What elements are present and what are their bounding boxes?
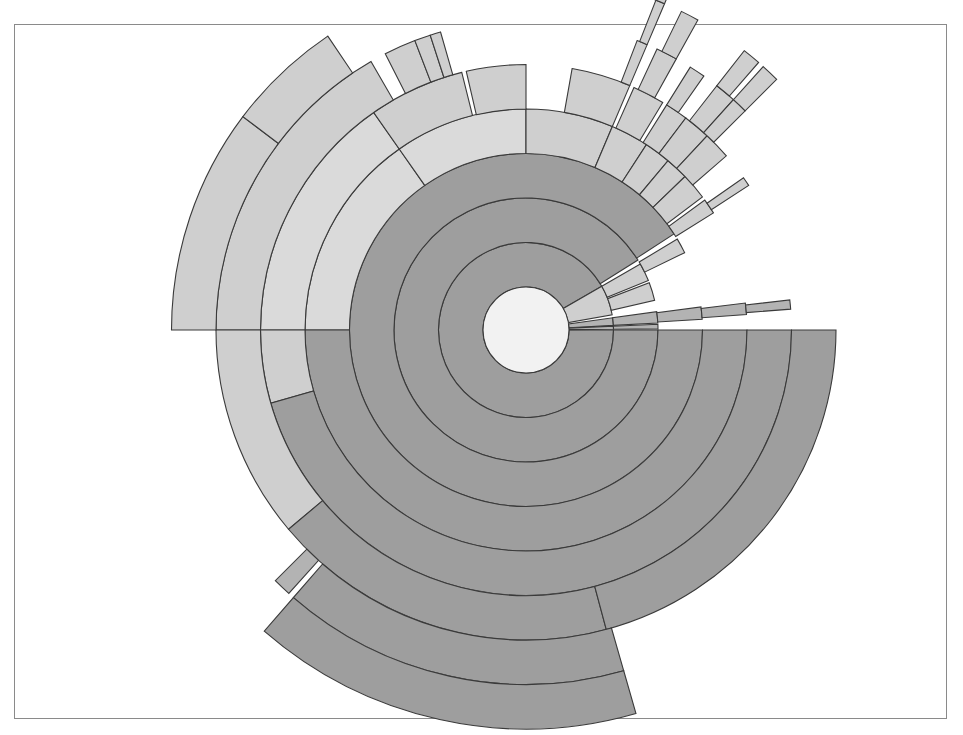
segment-ring5-24[interactable] (466, 65, 526, 115)
segment-ring7-48[interactable] (640, 0, 665, 44)
segment-ring2-7[interactable] (613, 312, 658, 326)
segment-ring6-40[interactable] (667, 67, 704, 112)
segment-ring4-20[interactable] (701, 303, 746, 318)
segment-ring5-32[interactable] (261, 330, 314, 403)
segment-ring3-11[interactable] (657, 307, 702, 322)
segment-ring5-30[interactable] (707, 178, 749, 210)
sunburst-chart (0, 0, 963, 735)
segment-ring7-49[interactable] (662, 11, 698, 58)
segment-ring5-31[interactable] (746, 300, 791, 313)
center-disc[interactable] (483, 287, 569, 373)
